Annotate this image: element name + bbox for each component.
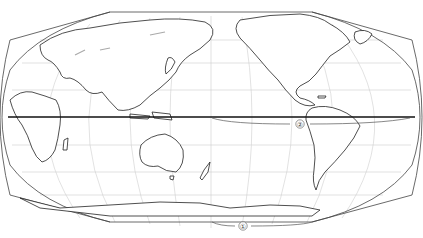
australia (140, 134, 184, 172)
eurasia (40, 19, 213, 111)
label-1: ① (239, 222, 247, 231)
north-america (236, 14, 350, 106)
svg-text:②: ② (297, 121, 303, 129)
svg-text:①: ① (240, 223, 246, 231)
world-map: ② ① (0, 0, 423, 238)
africa (10, 92, 61, 162)
south-america (306, 106, 360, 190)
bracket-1 (212, 222, 312, 226)
label-2: ② (296, 120, 304, 129)
